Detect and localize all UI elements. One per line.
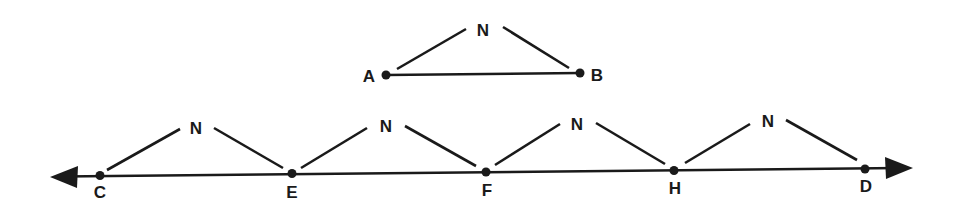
- point-e: [288, 169, 297, 178]
- number-line: N N N N C E F H D: [50, 112, 913, 202]
- point-a: [382, 71, 391, 80]
- segment-n1-e: [214, 128, 283, 168]
- label-b: B: [591, 66, 603, 85]
- line-cd: [62, 168, 900, 177]
- label-d: D: [860, 177, 872, 196]
- segment-e-n2: [301, 128, 367, 168]
- segment-f-n3: [495, 124, 560, 165]
- label-n-top: N: [477, 21, 489, 40]
- label-a: A: [363, 67, 375, 86]
- point-d: [861, 165, 870, 174]
- label-n-3: N: [571, 115, 583, 134]
- arrow-left-icon: [50, 166, 78, 188]
- label-h: H: [669, 179, 681, 198]
- point-f: [482, 168, 491, 177]
- segment-h-n4: [685, 124, 750, 163]
- segment-n-b: [503, 27, 569, 68]
- point-c: [96, 171, 105, 180]
- point-b: [576, 69, 585, 78]
- segment-n4-d: [786, 120, 857, 160]
- segment-n2-f: [405, 126, 476, 166]
- label-n-1: N: [190, 119, 202, 138]
- label-c: C: [94, 183, 106, 202]
- segment-n3-h: [596, 123, 665, 164]
- point-h: [670, 166, 679, 175]
- label-e: E: [286, 183, 297, 202]
- geometry-diagram: N A B N N N N C E F H D: [0, 0, 958, 213]
- label-n-2: N: [380, 117, 392, 136]
- segment-a-b: [386, 73, 580, 75]
- label-f: F: [482, 181, 492, 200]
- top-triangle: N A B: [363, 21, 603, 86]
- arrow-right-icon: [885, 157, 913, 179]
- segment-c-n1: [107, 129, 180, 170]
- label-n-4: N: [762, 112, 774, 131]
- segment-a-n: [397, 29, 466, 69]
